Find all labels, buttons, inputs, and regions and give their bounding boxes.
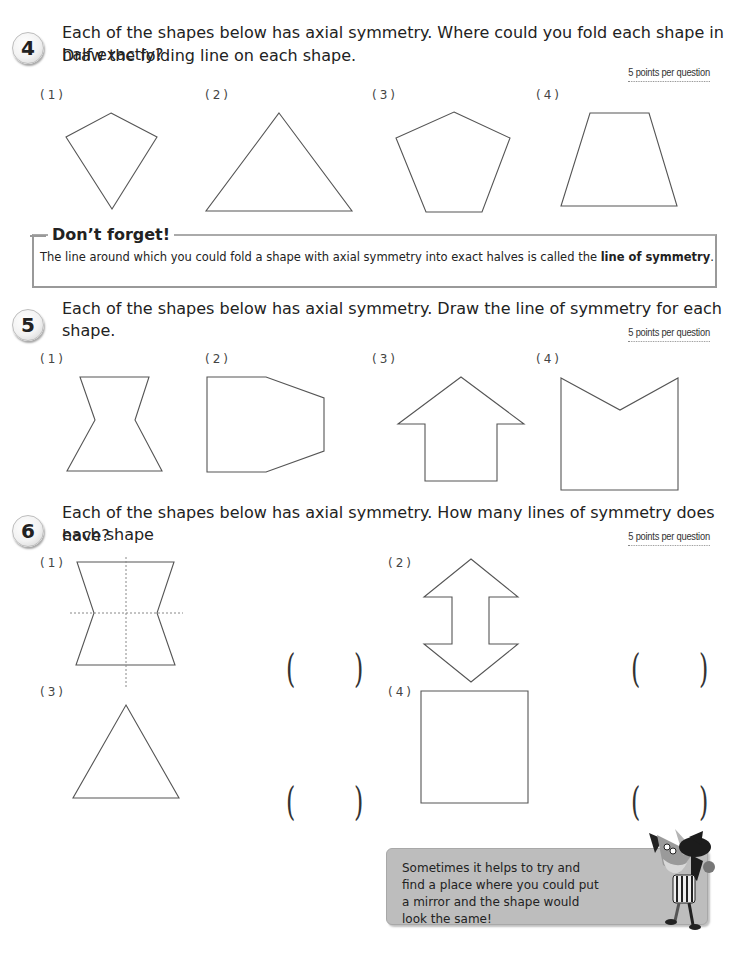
close-paren: ) [700,645,709,691]
answer-field[interactable]: ( ) [283,778,367,828]
close-paren: ) [355,645,364,691]
open-paren: ( [286,645,295,691]
open-paren: ( [286,778,295,824]
fox-mascot-icon [645,825,735,935]
answer-field[interactable]: ( ) [628,645,712,695]
answer-field[interactable]: ( ) [283,645,367,695]
open-paren: ( [631,645,640,691]
open-paren: ( [631,778,640,824]
tip-text: Sometimes it helps to try and find a pla… [402,860,602,928]
close-paren: ) [700,778,709,824]
close-paren: ) [355,778,364,824]
answer-field[interactable]: ( ) [628,778,712,828]
